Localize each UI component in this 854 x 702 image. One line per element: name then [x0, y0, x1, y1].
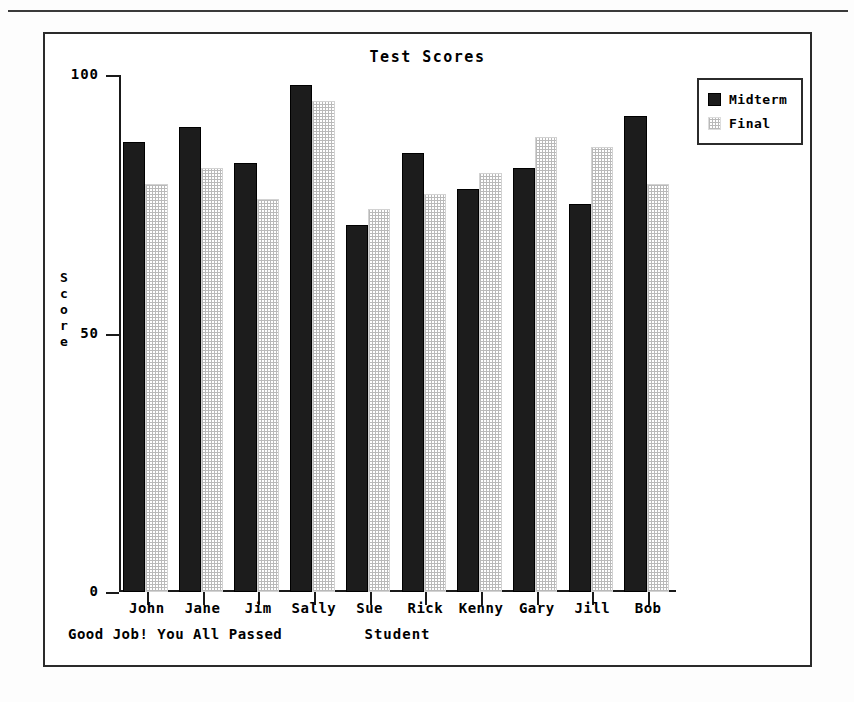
y-axis-title-letter: c	[57, 286, 71, 302]
x-axis-labels: JohnJaneJimSallySueRickKennyGaryJillBob	[119, 600, 676, 622]
bar-final-sally	[312, 101, 334, 592]
legend-item-final: Final	[708, 111, 801, 135]
bar-final-jill	[591, 147, 613, 592]
x-axis-label-rick: Rick	[407, 600, 443, 616]
x-axis-label-jim: Jim	[245, 600, 272, 616]
chart-annotation: Good Job! You All Passed	[68, 626, 282, 642]
bar-midterm-sue	[346, 225, 368, 592]
legend-label: Midterm	[729, 92, 787, 107]
bar-final-gary	[535, 137, 557, 592]
bar-final-jane	[201, 168, 223, 592]
x-axis-label-jane: Jane	[185, 600, 221, 616]
bar-final-john	[145, 184, 167, 592]
bar-final-rick	[424, 194, 446, 592]
chart-legend: MidtermFinal	[697, 78, 803, 145]
bar-final-bob	[647, 184, 669, 592]
plot-area: 050100	[119, 75, 676, 592]
x-axis-label-sally: Sally	[292, 600, 337, 616]
stippled-light-swatch	[708, 117, 721, 130]
x-axis-label-jill: Jill	[575, 600, 611, 616]
x-axis-label-gary: Gary	[519, 600, 555, 616]
y-axis-title-letter: o	[57, 302, 71, 318]
y-axis-tick: 0	[106, 592, 119, 594]
bar-midterm-kenny	[457, 189, 479, 592]
bar-midterm-jill	[569, 204, 591, 592]
legend-label: Final	[729, 116, 771, 131]
y-axis-tick-label: 50	[80, 325, 99, 341]
bar-final-kenny	[479, 173, 501, 592]
bar-midterm-sally	[290, 85, 312, 592]
x-axis-label-sue: Sue	[356, 600, 383, 616]
bar-final-jim	[257, 199, 279, 592]
bar-final-sue	[368, 209, 390, 592]
bar-midterm-jim	[234, 163, 256, 592]
bar-midterm-bob	[624, 116, 646, 592]
y-axis-title-letter: e	[57, 334, 71, 350]
y-axis-title-letter: r	[57, 318, 71, 334]
page-top-rule	[8, 10, 848, 12]
x-axis-label-kenny: Kenny	[459, 600, 504, 616]
bar-midterm-jane	[179, 127, 201, 592]
y-axis-title: Score	[57, 270, 71, 350]
y-axis-title-letter: S	[57, 270, 71, 286]
legend-item-midterm: Midterm	[708, 87, 801, 111]
y-axis-line	[119, 75, 121, 592]
y-axis-tick-label: 0	[90, 583, 99, 599]
y-axis-tick: 50	[106, 334, 119, 336]
y-axis-tick: 100	[106, 75, 119, 77]
bar-midterm-rick	[402, 153, 424, 592]
bar-midterm-gary	[513, 168, 535, 592]
x-axis-label-john: John	[129, 600, 165, 616]
bar-midterm-john	[123, 142, 145, 592]
chart-title: Test Scores	[45, 48, 810, 66]
solid-dark-swatch	[708, 93, 721, 106]
x-axis-label-bob: Bob	[635, 600, 662, 616]
y-axis-tick-label: 100	[71, 66, 99, 82]
